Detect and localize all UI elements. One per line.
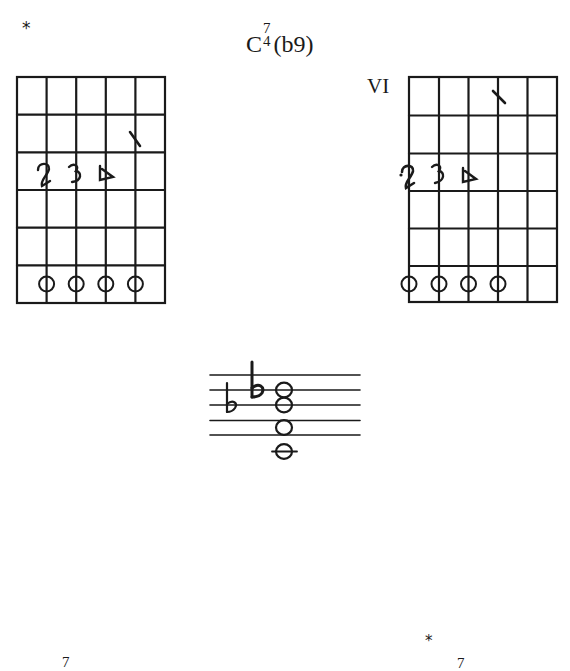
finger-3-mark <box>69 165 80 182</box>
string-lines <box>439 77 528 302</box>
note-circles <box>39 277 143 292</box>
next-chord-superscript-left: 7 <box>62 655 70 670</box>
fret-lines <box>17 115 165 266</box>
notehead <box>276 420 292 435</box>
chord-diagram-right <box>399 77 557 302</box>
finger-3-mark <box>432 165 443 183</box>
flat-sign-small <box>227 383 236 412</box>
fretboard-frame <box>409 77 557 302</box>
staff-lines <box>210 375 360 435</box>
music-staff <box>210 362 360 459</box>
finger-2-mark <box>38 164 50 186</box>
next-chord-superscript-right: 7 <box>457 656 465 671</box>
chord-diagram-left <box>17 77 165 303</box>
fret-lines <box>409 116 557 267</box>
note-circles <box>402 277 506 292</box>
flat-sign-large <box>252 362 263 397</box>
next-chord-marker-asterisk: * <box>425 634 433 649</box>
